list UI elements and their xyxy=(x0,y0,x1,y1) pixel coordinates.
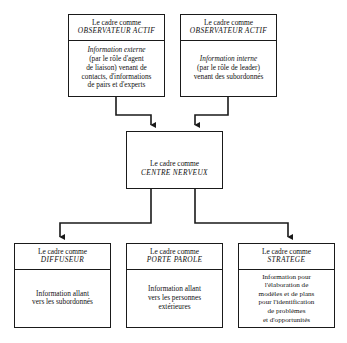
node-role-label: PORTE PAROLE xyxy=(130,256,219,264)
node-body-line: pour l'identification xyxy=(259,298,315,307)
node-header-observateur-actif-externe: Le cadre comme OBSERVATEUR ACTIF xyxy=(69,15,164,41)
node-role-label: STRATEGE xyxy=(242,256,331,264)
node-body-observateur-actif-externe: Information externe (par le rôle d'agent… xyxy=(69,41,164,96)
node-body-line: de pairs et d'experts xyxy=(82,81,152,90)
node-observateur-actif-interne: Le cadre comme OBSERVATEUR ACTIF Informa… xyxy=(180,14,277,97)
node-body-line: l'élaboration de xyxy=(259,281,315,290)
node-centre-nerveux: Le cadre comme CENTRE NERVEUX xyxy=(126,131,223,189)
connector-internal-to-center xyxy=(195,97,228,125)
node-header-stratege: Le cadre comme STRATEGE xyxy=(239,244,334,270)
node-body-diffuseur: Information allant vers les subordonnés xyxy=(15,270,110,327)
node-role-label: DIFFUSEUR xyxy=(18,256,107,264)
node-body-line: Information pour xyxy=(259,273,315,282)
node-body-line: et d'opportunités xyxy=(259,316,315,325)
node-body-line: modèles et de plans xyxy=(259,290,315,299)
node-observateur-actif-externe: Le cadre comme OBSERVATEUR ACTIF Informa… xyxy=(68,14,165,97)
node-body-line: vers les subordonnés xyxy=(32,298,93,307)
node-role-label: OBSERVATEUR ACTIF xyxy=(184,27,273,35)
flowchart-diagram: Le cadre comme OBSERVATEUR ACTIF Informa… xyxy=(0,0,347,343)
node-header-observateur-actif-interne: Le cadre comme OBSERVATEUR ACTIF xyxy=(181,15,276,41)
node-porte-parole: Le cadre comme PORTE PAROLE Information … xyxy=(126,243,223,328)
node-header-diffuseur: Le cadre comme DIFFUSEUR xyxy=(15,244,110,270)
node-body-observateur-actif-interne: Information interne (par le rôle de lead… xyxy=(181,41,276,96)
node-role-label: OBSERVATEUR ACTIF xyxy=(72,27,161,35)
node-diffuseur: Le cadre comme DIFFUSEUR Information all… xyxy=(14,243,111,328)
node-body-porte-parole: Information allant vers les personnes ex… xyxy=(127,270,222,327)
node-stratege: Le cadre comme STRATEGE Information pour… xyxy=(238,243,335,328)
node-header-porte-parole: Le cadre comme PORTE PAROLE xyxy=(127,244,222,270)
connector-center-to-strategist xyxy=(195,189,288,237)
node-body-line: venant des subordonnés xyxy=(194,73,264,82)
node-role-label: CENTRE NERVEUX xyxy=(130,169,219,177)
node-header-centre-nerveux: Le cadre comme CENTRE NERVEUX xyxy=(127,139,222,181)
connector-external-to-center xyxy=(116,97,151,125)
connector-center-to-diffuser xyxy=(60,189,151,237)
node-body-stratege: Information pour l'élaboration de modèle… xyxy=(239,270,334,328)
node-body-line: extérieures xyxy=(148,303,201,312)
node-body-line: de problèmes xyxy=(259,307,315,316)
